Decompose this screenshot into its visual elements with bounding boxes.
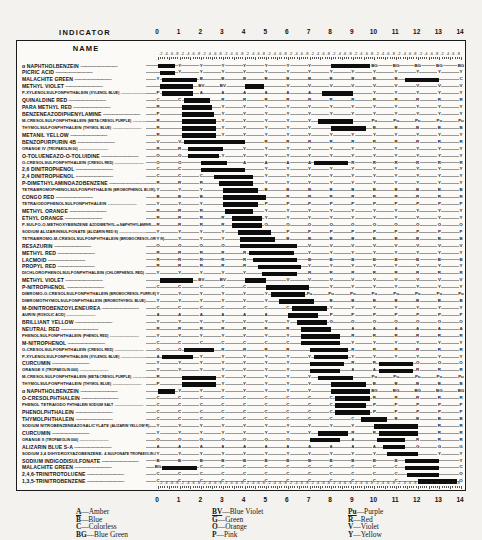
color-code-symbol: C xyxy=(178,173,182,180)
table-row[interactable]: 2,4 DINITROPHENOL ————————CCCYYYYYYYYYY xyxy=(17,173,465,180)
table-row[interactable]: THYMOLSULFONPHTHALEIN (THYMOL BLUE) ————… xyxy=(17,381,465,388)
color-code-symbol: P xyxy=(437,402,441,409)
table-row[interactable]: α NAPHTHOLBENZEIN ————————YYYYYYYBGBGBGB… xyxy=(17,63,465,70)
ruler-tick xyxy=(340,486,341,488)
table-row[interactable]: MALACHITE GREEN ————————YBBBBBBBBBBC xyxy=(17,76,465,83)
table-row[interactable]: ORANGE II (TROPAEOLIN 000) ————————YYYYY… xyxy=(17,367,465,374)
table-row[interactable]: THYMOLPHTHALEIN ————————CCCCCCCCCCBBBB xyxy=(17,416,465,423)
table-row[interactable]: ORANGE II (TROPAEOLIN 000) ————————OOOOO… xyxy=(17,437,465,444)
ruler-tick xyxy=(195,486,196,488)
table-row[interactable]: ORANGE IV (TROPAEOLIN 00) ————————RRYYYY… xyxy=(17,146,465,153)
ph-track: YYYYYRRRRRRRR xyxy=(146,270,460,277)
color-code-symbol: Y xyxy=(156,291,160,298)
table-row[interactable]: O-CRESOLPHTHALEIN ————————CCCCCCCCCRRRRR xyxy=(17,395,465,402)
table-row[interactable]: BENZENEAZODIPHENYLAMINE ————————PYYYYYYY… xyxy=(17,111,465,118)
color-code-symbol: Y xyxy=(416,153,420,160)
table-row[interactable]: 2,6 DINITROPHENOL ————————CCYYYYYYYYYY xyxy=(17,166,465,173)
color-code-symbol: Y xyxy=(243,367,247,374)
table-row[interactable]: LACMOID ————————RRRRRBBBBBBBB xyxy=(17,257,465,264)
table-row[interactable]: M-DINITROBENZOYLENEUREA ————————CCCCCCCY… xyxy=(17,305,465,312)
table-row[interactable]: AURIN (ROSOLIC ACID) ————————AAAAAAPPPPP… xyxy=(17,312,465,319)
table-row[interactable]: METHYL VIOLET ————————BVBVVVVVVVVVV xyxy=(17,83,465,90)
table-row[interactable]: SODIUM NITROBENZENEAZOSALICYLATE (ALIZAR… xyxy=(17,423,465,430)
color-code-symbol: O xyxy=(307,222,311,229)
color-code-symbol: V xyxy=(156,139,160,146)
table-row[interactable]: CONGO RED ————————BBBRRRRRRRRR xyxy=(17,194,465,201)
table-row[interactable]: DICHLOROPHENOLSULFONPHTHALEIN (CHLORPHEN… xyxy=(17,270,465,277)
table-row[interactable]: METHYL VIOLET ————————BVBVVVVVVVVVV xyxy=(17,277,465,284)
table-row[interactable]: SODIUM 2,4 DIHYDROXYAZOBENZENE- 4-SULFON… xyxy=(17,451,465,458)
ruler-tick xyxy=(186,57,187,59)
color-code-symbol: Y xyxy=(221,423,225,430)
table-row[interactable]: TETRABROMOPHENOLSULFONPHTHALEIN (BROMOPH… xyxy=(17,187,465,194)
table-row[interactable]: BENZOPURPURIN 4B ————————VVRRRRRRRRRR xyxy=(17,139,465,146)
table-row[interactable]: M-NITROPHENOL ————————CCCCCCCYYYYYY xyxy=(17,340,465,347)
ruler-tick xyxy=(420,57,421,59)
color-code-symbol: C xyxy=(199,464,203,471)
color-code-symbol: R xyxy=(372,430,376,437)
color-code-symbol: Y xyxy=(329,166,333,173)
table-row[interactable]: QUINALDINE RED ————————CCRRRRRRRRRRRR xyxy=(17,97,465,104)
ruler-tick xyxy=(379,486,380,488)
table-row[interactable]: SODIUM INDIGODISULFONATE ————————BBBBBBB… xyxy=(17,458,465,465)
table-row[interactable]: SODIUM ALIZARINSULFONATE (ALIZARIN RED S… xyxy=(17,229,465,236)
table-row[interactable]: TETRABROMO-M-CRESOLSULFONPHTHALEIN (BROM… xyxy=(17,236,465,243)
color-code-symbol: R xyxy=(156,104,160,111)
table-row[interactable]: P-XYLENOLSULFONPHTHALEIN (XYLENOL BLUE) … xyxy=(17,354,465,361)
color-code-symbol: O xyxy=(286,222,290,229)
ruler-tick xyxy=(390,486,391,488)
table-row[interactable]: PARA METHYL RED ————————RYYYYYYYYYYYY xyxy=(17,104,465,111)
table-row[interactable]: TETRAIODOPHENOLSULFONPHTHALEIN ————————Y… xyxy=(17,201,465,208)
table-row[interactable]: BRILLIANT YELLOW ————————YYYYYYYOOOOOOO xyxy=(17,319,465,326)
table-row[interactable]: DIBROMOTHYMOLSULFONPHTHALEIN (BROMOTHYMO… xyxy=(17,298,465,305)
table-row[interactable]: CURCUMIN ————————YYYYYYYRROOO xyxy=(17,360,465,367)
ruler-tick xyxy=(335,57,336,59)
table-row[interactable]: METANIL YELLOW ————————RYYYYYYYYYYYY xyxy=(17,132,465,139)
table-row[interactable]: PHENOLSULFONPHTHALEIN (PHENOL RED) —————… xyxy=(17,333,465,340)
color-code-symbol: Y xyxy=(459,132,463,139)
table-row[interactable]: O-TOLUENEAZO-O-TOLUIDINE ————————OOYYYYY… xyxy=(17,153,465,160)
table-row[interactable]: ETHYL ORANGE ————————RRRRYYYYYYYYYY xyxy=(17,215,465,222)
table-row[interactable]: THYMOLSULFONPHTHALEIN (THYMOL BLUE) ————… xyxy=(17,125,465,132)
track-baseline xyxy=(146,204,460,205)
table-row[interactable]: 2,4,6-TRINITROTOLUENE ————————CCCCCCCCCC… xyxy=(17,471,465,478)
table-row[interactable]: ALIZARIN BLUE S-A ————————AAAAAAAAAAAGGG xyxy=(17,444,465,451)
color-code-symbol: Y xyxy=(329,215,333,222)
ruler-tick xyxy=(435,486,436,488)
table-row[interactable]: RESAZURIN ————————OOOOVVVVVVVV xyxy=(17,243,465,250)
color-code-symbol: C xyxy=(178,395,182,402)
chart-frame: NAME .2 .4 .6 .8.2 .4 .6 .8.2 .4 .6 .8.2… xyxy=(16,40,466,491)
table-row[interactable]: α NAPHTHOLBENZEIN ————————YYYYYYYBGBGBGB… xyxy=(17,388,465,395)
table-row[interactable]: P-XYLENOLSULFONPHTHALEIN (XYLENOL BLUE) … xyxy=(17,90,465,97)
table-row[interactable]: PHENOLPHTHALEIN ————————CCCCCCCCCPPPPP xyxy=(17,409,465,416)
legend-entry: P—Pink xyxy=(212,531,263,539)
table-row[interactable]: P-SULFO-O-METHOXYBENZENE AZODIMETHYL-α-N… xyxy=(17,222,465,229)
table-row[interactable]: CURCUMIN ————————YYYYYYYYRRRR xyxy=(17,430,465,437)
table-row[interactable]: P-NITROPHENOL ————————CCCCCYYYYYYY xyxy=(17,284,465,291)
table-row[interactable]: PROPYL RED ————————RRRRRYYYYYYYY xyxy=(17,263,465,270)
table-row[interactable]: PHENOL TETRAIODO PHTHALEIN SODIUM SALT —… xyxy=(17,402,465,409)
color-code-symbol: R xyxy=(286,347,290,354)
color-code-symbol: C xyxy=(459,464,463,471)
color-code-symbol: Y xyxy=(286,118,290,125)
ruler-tick xyxy=(348,486,349,488)
ruler-tick xyxy=(199,57,200,59)
table-row[interactable]: NEUTRAL RED ————————RRRRRRRAAAAAA xyxy=(17,326,465,333)
ruler-tick xyxy=(225,486,226,488)
color-code-symbol: Pu xyxy=(436,291,442,298)
ph-track: YYYPPPPPPPPPP xyxy=(146,201,460,208)
table-row[interactable]: O-CRESOLSULFONPHTHALEIN (CRESOL RED) ———… xyxy=(17,347,465,354)
ruler-tick xyxy=(400,57,401,59)
table-row[interactable]: METHYL RED ————————RRRRRYYYYYYYY xyxy=(17,250,465,257)
table-row[interactable]: M-CRESOLSULFONPHTHALEIN (META CRESOL PUR… xyxy=(17,374,465,381)
table-row[interactable]: O-CRESOLSULFONPHTHALEIN (CRESOL RED) ———… xyxy=(17,160,465,167)
table-row[interactable]: P-DIMETHYLAMINOAZOBENZENE ————————RRRYYY… xyxy=(17,180,465,187)
color-code-symbol: R xyxy=(459,430,463,437)
table-row[interactable]: METHYL ORANGE ————————RRRYYYYYYYYYY xyxy=(17,208,465,215)
color-code-symbol: Y xyxy=(264,173,268,180)
table-row[interactable]: M-CRESOLSULFONPHTHALEIN (META CRESOL PUR… xyxy=(17,118,465,125)
table-row[interactable]: DIBROMO-O-CRESOLSULFONPHTHALEIN (BROMOCR… xyxy=(17,291,465,298)
color-code-symbol: C xyxy=(329,402,333,409)
table-row[interactable]: MALACHITE GREEN ————————BGCCCCCCCCCCC xyxy=(17,464,465,471)
table-row[interactable]: PICRIC ACID ————————YYYYYYYYYYYYYY xyxy=(17,69,465,76)
